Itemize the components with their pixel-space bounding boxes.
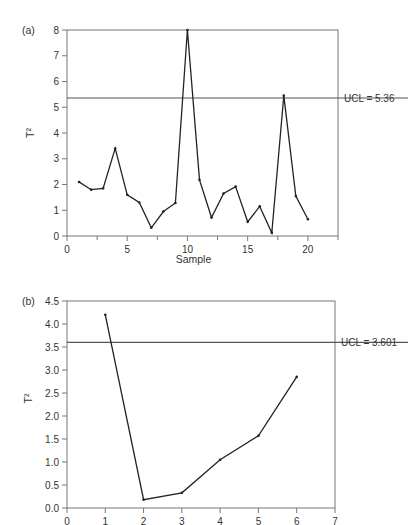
control-charts: 01234567805101520UCL = 5.36(a)T²Sample 0… xyxy=(0,0,408,525)
panel-label: (a) xyxy=(22,24,35,36)
data-point xyxy=(219,458,222,461)
x-tick-label: 2 xyxy=(141,516,147,525)
data-point xyxy=(258,205,261,208)
data-point xyxy=(210,216,213,219)
data-series-line xyxy=(79,30,308,233)
y-tick-label: 0.0 xyxy=(45,503,59,514)
ucl-label: UCL = 5.36 xyxy=(344,93,395,104)
data-point xyxy=(198,179,201,182)
data-point xyxy=(307,218,310,221)
y-tick-label: 8 xyxy=(53,25,59,36)
data-point xyxy=(102,187,105,190)
data-point xyxy=(283,94,286,97)
y-tick-label: 2.0 xyxy=(45,411,59,422)
data-point xyxy=(138,201,141,204)
y-tick-label: 2 xyxy=(53,179,59,190)
y-tick-label: 1.0 xyxy=(45,457,59,468)
data-point xyxy=(186,29,189,32)
y-tick-label: 0 xyxy=(53,231,59,242)
data-point xyxy=(90,188,93,191)
x-axis-title: Sample xyxy=(176,253,212,265)
y-tick-label: 1 xyxy=(53,205,59,216)
x-tick-label: 4 xyxy=(217,516,223,525)
x-tick-label: 3 xyxy=(179,516,185,525)
y-tick-label: 0.5 xyxy=(45,480,59,491)
y-tick-label: 7 xyxy=(53,50,59,61)
data-point xyxy=(162,210,165,213)
ucl-label: UCL = 3.601 xyxy=(341,337,397,348)
x-tick-label: 7 xyxy=(332,516,338,525)
x-tick-label: 6 xyxy=(294,516,300,525)
y-tick-label: 3.0 xyxy=(45,365,59,376)
data-point xyxy=(174,202,177,205)
x-tick-label: 1 xyxy=(103,516,109,525)
panel-label: (b) xyxy=(22,295,35,307)
x-tick-label: 15 xyxy=(242,244,254,255)
data-point xyxy=(222,192,225,195)
y-tick-label: 4 xyxy=(53,128,59,139)
data-point xyxy=(270,231,273,234)
y-axis-title: T² xyxy=(24,128,36,138)
x-tick-label: 20 xyxy=(302,244,314,255)
y-tick-label: 3.5 xyxy=(45,342,59,353)
data-point xyxy=(142,498,145,501)
data-point xyxy=(181,492,184,495)
data-point xyxy=(78,181,81,184)
data-point xyxy=(114,147,117,150)
chart-panel-a: 01234567805101520UCL = 5.36(a)T²Sample xyxy=(22,24,408,265)
data-point xyxy=(126,194,129,197)
data-point xyxy=(257,434,260,437)
y-tick-label: 6 xyxy=(53,76,59,87)
plot-frame xyxy=(67,30,338,236)
x-tick-label: 0 xyxy=(64,516,70,525)
chart-panel-b: 0.00.51.01.52.02.53.03.54.04.501234567UC… xyxy=(22,295,408,525)
data-point xyxy=(246,221,249,224)
y-tick-label: 4.5 xyxy=(45,296,59,307)
x-tick-label: 5 xyxy=(256,516,262,525)
data-point xyxy=(295,376,298,379)
data-point xyxy=(150,226,153,229)
y-axis-title: T² xyxy=(22,393,34,403)
y-tick-label: 4.0 xyxy=(45,319,59,330)
data-point xyxy=(295,195,298,198)
y-tick-label: 5 xyxy=(53,102,59,113)
data-point xyxy=(104,314,107,317)
data-point xyxy=(234,185,237,188)
y-tick-label: 1.5 xyxy=(45,434,59,445)
y-tick-label: 3 xyxy=(53,153,59,164)
x-tick-label: 5 xyxy=(124,244,130,255)
y-tick-label: 2.5 xyxy=(45,388,59,399)
x-tick-label: 0 xyxy=(64,244,70,255)
